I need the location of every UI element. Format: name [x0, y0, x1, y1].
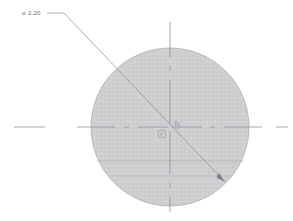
- drawing-viewport: ⌀ 2.20: [0, 0, 293, 221]
- diameter-dimension-label: ⌀ 2.20: [22, 9, 41, 16]
- technical-drawing-canvas: ⌀ 2.20: [0, 0, 293, 221]
